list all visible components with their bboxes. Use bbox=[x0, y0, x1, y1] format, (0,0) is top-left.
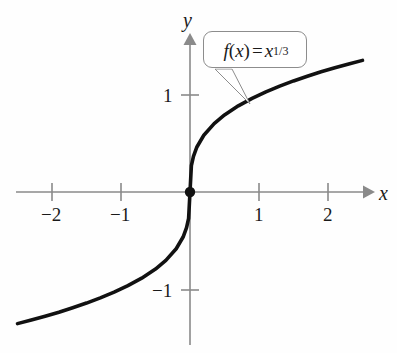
y-tick-label-pos1: 1 bbox=[163, 86, 173, 105]
x-axis-arrowhead bbox=[363, 186, 375, 199]
callout-equals-sign: = bbox=[250, 40, 265, 62]
graph-canvas bbox=[0, 0, 397, 353]
callout-base: x bbox=[265, 40, 273, 62]
callout-tail bbox=[215, 69, 250, 104]
cube-root-function-figure: f(x)=x1/3 −2 −1 1 2 1 −1 x y bbox=[0, 0, 397, 353]
x-axis-label: x bbox=[379, 183, 388, 203]
callout-variable: x bbox=[235, 40, 243, 62]
function-callout-label: f(x)=x1/3 bbox=[204, 32, 308, 69]
x-tick-label-pos2: 2 bbox=[323, 205, 333, 224]
x-tick-label-neg2: −2 bbox=[41, 205, 61, 224]
x-tick-label-pos1: 1 bbox=[254, 205, 264, 224]
y-axis-label: y bbox=[183, 10, 192, 30]
y-tick-label-neg1: −1 bbox=[152, 281, 172, 300]
x-tick-label-neg1: −1 bbox=[110, 205, 130, 224]
y-axis-arrowhead bbox=[184, 33, 197, 45]
origin-point-marker bbox=[185, 187, 195, 197]
function-callout-box: f(x)=x1/3 bbox=[203, 31, 307, 68]
